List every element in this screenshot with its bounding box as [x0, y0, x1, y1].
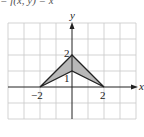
tick-label-x-2: 2 — [100, 90, 106, 101]
y-axis-label: y — [70, 10, 75, 21]
axes — [8, 26, 134, 119]
tick-label-x-neg2: −2 — [31, 90, 43, 101]
x-axis-arrow-icon — [131, 85, 138, 90]
x-axis-label: x — [139, 81, 144, 92]
tick-label-y-1: 1 — [64, 73, 70, 84]
tick-label-y-2: 2 — [64, 48, 70, 59]
